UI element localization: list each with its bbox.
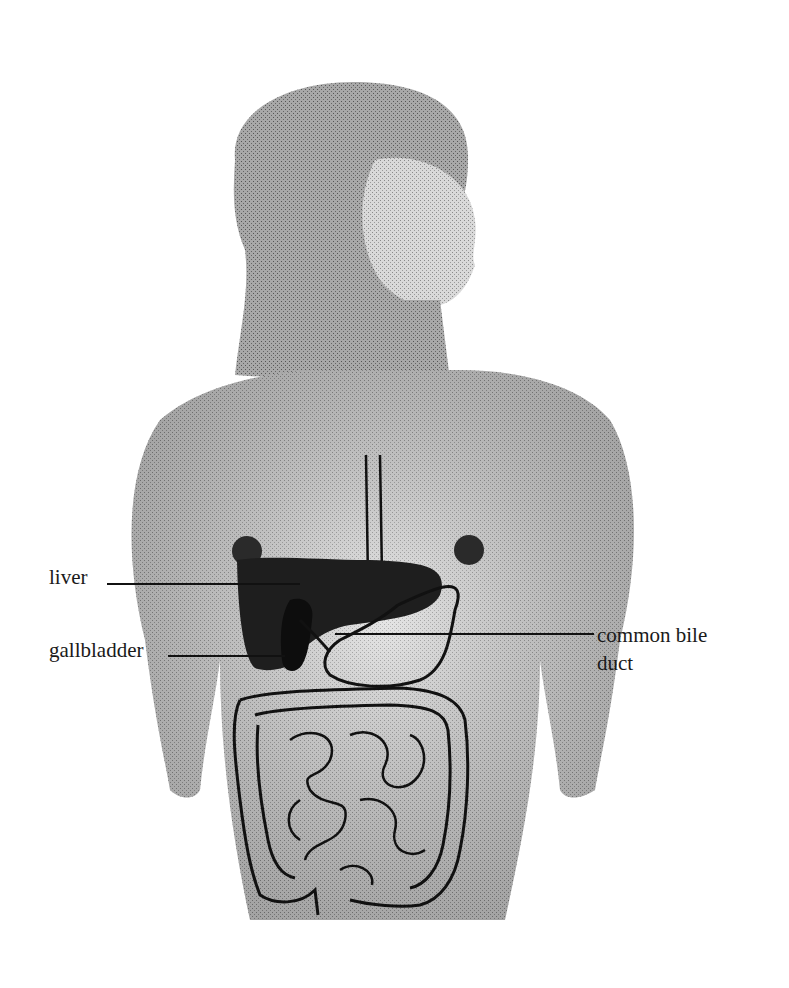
label-liver: liver	[49, 567, 87, 588]
body-illustration	[0, 0, 789, 988]
label-common-bile-duct-line1: common bile	[597, 621, 707, 649]
right-nipple	[454, 535, 484, 565]
neck	[320, 300, 450, 380]
label-common-bile-duct-line2: duct	[597, 649, 707, 677]
torso	[131, 370, 633, 920]
anatomy-diagram: liver gallbladder common bile duct	[0, 0, 789, 988]
label-common-bile-duct: common bile duct	[597, 621, 707, 677]
label-gallbladder: gallbladder	[49, 640, 143, 661]
